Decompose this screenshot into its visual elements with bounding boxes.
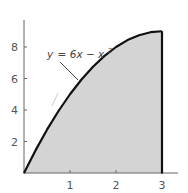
- x-tick-label-2: 2: [113, 179, 120, 192]
- y-tick-label-4: 4: [11, 104, 18, 117]
- y-tick-label-8: 8: [11, 41, 18, 54]
- y-tick-label-2: 2: [11, 136, 18, 149]
- x-tick-label-1: 1: [67, 179, 74, 192]
- area-chart: 2 4 6 8 1 2 3 y = 6x − x 2: [0, 0, 188, 193]
- faint-artifact-line: [52, 93, 58, 106]
- annotation-leader-line: [60, 62, 78, 80]
- x-tick-label-3: 3: [159, 179, 166, 192]
- y-tick-label-6: 6: [11, 73, 18, 86]
- equation-superscript: 2: [108, 47, 113, 55]
- equation-body: = 6x − x: [58, 48, 106, 60]
- equation-label: y = 6x − x 2: [46, 47, 113, 60]
- equation-y: y: [46, 48, 54, 60]
